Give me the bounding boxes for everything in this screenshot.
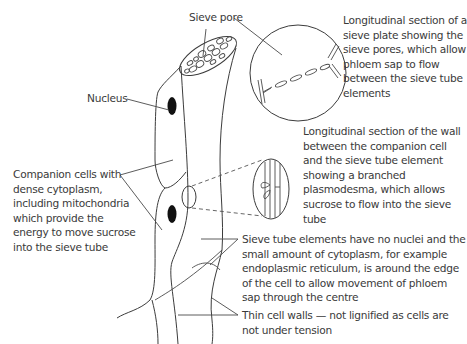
label-sieve-tube-elements: Sieve tube elements have no nuclei and t… [242,232,466,305]
label-wall-section: Longitudinal section of the wall between… [303,124,461,226]
plasmodesma-magnified [182,159,289,219]
nucleus-upper [168,97,177,115]
label-sieve-plate-section: Longitudinal section of a sieve plate sh… [343,13,467,101]
label-nucleus: Nucleus [87,91,127,106]
label-sieve-pore: Sieve pore [189,10,243,25]
label-companion-cells: Companion cells with dense cytoplasm, in… [13,167,135,255]
label-thin-cell-walls: Thin cell walls — not lignified as cells… [242,308,449,337]
nucleus-lower [168,205,177,223]
sieve-plate-magnified [234,18,346,121]
sieve-tube-element [171,29,242,344]
